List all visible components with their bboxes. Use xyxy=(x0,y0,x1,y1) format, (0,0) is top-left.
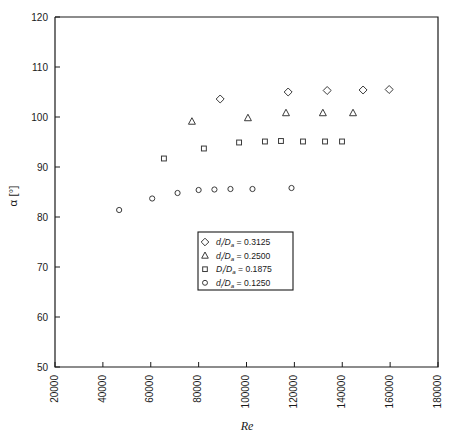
y-tick-label: 100 xyxy=(31,112,48,123)
x-tick-label: 60000 xyxy=(144,375,155,403)
legend-label: Di/Da = 0.1875 xyxy=(216,264,272,275)
legend-label: di/Da = 0.3125 xyxy=(216,237,271,248)
x-tick-label: 120000 xyxy=(288,375,299,409)
plot-background xyxy=(55,17,438,367)
legend-label: di/Da = 0.1250 xyxy=(216,278,271,289)
y-tick-label: 120 xyxy=(31,12,48,23)
x-tick-label: 20000 xyxy=(49,375,60,403)
chart-legend: di/Da = 0.3125di/Da = 0.2500Di/Da = 0.18… xyxy=(198,232,293,290)
x-tick-label: 180000 xyxy=(432,375,443,409)
x-tick-label: 80000 xyxy=(192,375,203,403)
x-tick-label: 160000 xyxy=(384,375,395,409)
y-tick-label: 60 xyxy=(37,312,49,323)
y-tick-label: 110 xyxy=(32,62,48,73)
x-axis-ticks: 2000040000600008000010000012000014000016… xyxy=(49,362,443,408)
x-tick-label: 100000 xyxy=(240,375,251,409)
y-tick-label: 50 xyxy=(37,362,49,373)
y-tick-label: 70 xyxy=(37,262,49,273)
y-tick-label: 80 xyxy=(37,212,49,223)
x-tick-label: 40000 xyxy=(97,375,108,403)
x-axis-title: Re xyxy=(240,419,254,433)
x-tick-label: 140000 xyxy=(336,375,347,409)
chart-container: 2000040000600008000010000012000014000016… xyxy=(0,0,454,438)
y-axis-title: α [°] xyxy=(7,186,19,207)
legend-label: di/Da = 0.2500 xyxy=(216,251,271,262)
alpha-vs-reynolds-scatter-chart: 2000040000600008000010000012000014000016… xyxy=(0,0,454,438)
plot-frame xyxy=(55,17,438,367)
y-tick-label: 90 xyxy=(37,162,49,173)
